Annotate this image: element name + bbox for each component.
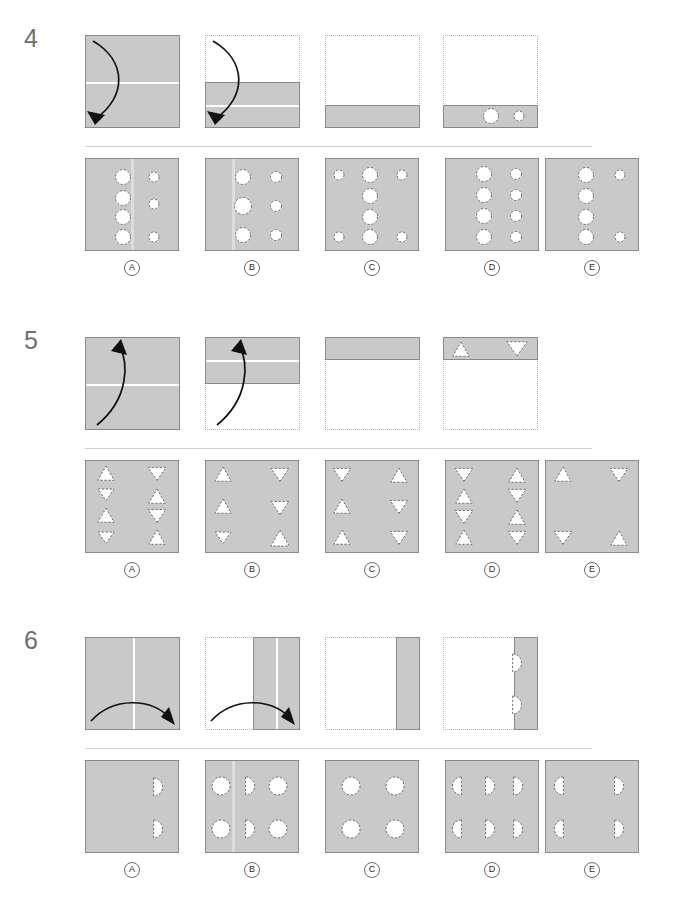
option-paper-face[interactable] (445, 460, 539, 553)
paper-region (325, 337, 420, 360)
option-letter-badge: A (124, 260, 140, 276)
section-divider (85, 748, 592, 749)
option-letter-label: A (85, 862, 179, 878)
option-letter-label: A (85, 260, 179, 276)
fold-arrow-right-arc (85, 637, 180, 730)
punch-holes-group (86, 761, 180, 854)
option-paper-face[interactable] (445, 158, 539, 251)
punch-holes-group (206, 159, 300, 252)
option-paper-face[interactable] (325, 460, 419, 553)
punch-holes-group (326, 159, 420, 252)
option-letter-label: D (445, 260, 539, 276)
step-3-folded-bottom-quarter (325, 35, 420, 128)
punch-holes-group (326, 461, 420, 554)
option-paper-face[interactable] (445, 760, 539, 853)
option-letter-badge: B (244, 862, 260, 878)
punch-holes-group (206, 761, 300, 854)
punch-holes-group (443, 637, 538, 730)
option-letter-label: E (545, 862, 639, 878)
option-letter-label: D (445, 562, 539, 578)
option-paper-face[interactable] (325, 158, 419, 251)
step-2-folded-top-half (205, 337, 300, 430)
punch-holes-group (206, 461, 300, 554)
punch-holes-group (546, 461, 640, 554)
option-paper-face[interactable] (85, 460, 179, 553)
step-1-full-square-horizontal-crease (85, 35, 180, 128)
punch-holes-group (546, 761, 640, 854)
fold-sequence (0, 18, 677, 138)
option-paper-face[interactable] (85, 158, 179, 251)
option-paper-face[interactable] (545, 760, 639, 853)
option-letter-label: C (325, 562, 419, 578)
punch-holes-group (86, 461, 180, 554)
option-letter-badge: C (364, 562, 380, 578)
punch-holes-group (443, 35, 538, 128)
paper-region (396, 637, 420, 730)
option-letter-label: E (545, 260, 639, 276)
option-letter-label: E (545, 562, 639, 578)
option-paper-face[interactable] (205, 460, 299, 553)
option-letter-label: D (445, 862, 539, 878)
option-paper-face[interactable] (85, 760, 179, 853)
option-letter-label: C (325, 260, 419, 276)
step-3-folded-top-quarter (325, 337, 420, 430)
step-4-punched-right-quarter (443, 637, 538, 730)
option-letter-badge: B (244, 260, 260, 276)
step-2-folded-bottom-half (205, 35, 300, 128)
step-1-full-square-horizontal-crease (85, 337, 180, 430)
fold-arrow-up-right-curve (85, 337, 180, 430)
punch-holes-group (443, 337, 538, 430)
section-divider (85, 448, 592, 449)
paper-region (325, 105, 420, 128)
option-letter-badge: C (364, 260, 380, 276)
option-paper-face[interactable] (545, 158, 639, 251)
option-letter-badge: E (584, 260, 600, 276)
option-letter-badge: D (484, 862, 500, 878)
fold-arrow-right-arc (205, 637, 300, 730)
option-letter-badge: E (584, 562, 600, 578)
punch-holes-group (446, 761, 540, 854)
option-letter-badge: B (244, 562, 260, 578)
answer-options-row: ABCDE (0, 460, 677, 595)
fold-arrow-down-left-curve (205, 35, 300, 128)
option-letter-badge: A (124, 862, 140, 878)
fold-sequence (0, 320, 677, 440)
answer-options-row: ABCDE (0, 760, 677, 895)
option-letter-badge: C (364, 862, 380, 878)
fold-sequence (0, 620, 677, 740)
option-paper-face[interactable] (325, 760, 419, 853)
step-1-full-square-vertical-crease (85, 637, 180, 730)
step-4-punched-bottom-quarter (443, 35, 538, 128)
answer-options-row: ABCDE (0, 158, 677, 293)
option-paper-face[interactable] (205, 158, 299, 251)
punch-holes-group (326, 761, 420, 854)
option-paper-face[interactable] (545, 460, 639, 553)
fold-arrow-down-left-curve (85, 35, 180, 128)
option-letter-label: B (205, 260, 299, 276)
option-letter-badge: A (124, 562, 140, 578)
step-4-punched-top-quarter (443, 337, 538, 430)
option-letter-badge: D (484, 260, 500, 276)
step-3-folded-right-quarter (325, 637, 420, 730)
option-letter-label: C (325, 862, 419, 878)
punch-holes-group (546, 159, 640, 252)
option-letter-label: B (205, 562, 299, 578)
paper-folding-test-page: 4ABCDE 5ABCDE 6ABCDE (0, 0, 677, 899)
option-letter-badge: E (584, 862, 600, 878)
punch-holes-group (446, 461, 540, 554)
punch-holes-group (446, 159, 540, 252)
step-2-folded-right-half (205, 637, 300, 730)
fold-arrow-up-right-curve (205, 337, 300, 430)
option-paper-face[interactable] (205, 760, 299, 853)
option-letter-label: B (205, 862, 299, 878)
section-divider (85, 146, 592, 147)
option-letter-label: A (85, 562, 179, 578)
option-letter-badge: D (484, 562, 500, 578)
punch-holes-group (86, 159, 180, 252)
